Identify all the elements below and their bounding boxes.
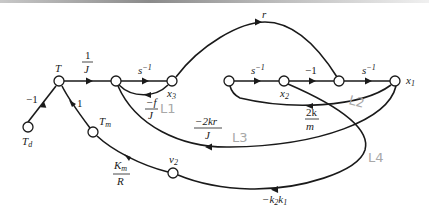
edge-x3-n1 — [119, 85, 168, 95]
gain-r: r — [262, 8, 267, 20]
gain-km-r-den: R — [116, 175, 124, 187]
node-n6 — [334, 76, 344, 86]
gain-td-t: −1 — [26, 93, 38, 105]
annotation-l2: L2 — [347, 92, 366, 111]
gain-2kr-den: J — [205, 129, 211, 141]
label-x1: x1 — [405, 74, 415, 88]
gain-s-inv-2: s−1 — [251, 63, 265, 76]
edges — [28, 19, 396, 194]
gain-labels: −1 1 1 J s−1 s−1 −1 s−1 r −f J −2kr J 2k… — [26, 8, 376, 207]
node-td — [23, 122, 33, 132]
node-n4 — [224, 76, 234, 86]
gain-2k-m-den: m — [306, 120, 314, 132]
gain-s-inv-3: s−1 — [362, 63, 376, 76]
signal-flow-graph: Td T x3 x2 x1 Tm v2 −1 1 1 J s−1 s−1 −1 … — [0, 0, 429, 218]
gain-inv-j-den: J — [84, 63, 90, 75]
node-x2 — [279, 76, 289, 86]
gain-f-over-j-den: J — [148, 109, 154, 121]
gain-2kr-num: −2kr — [195, 115, 218, 127]
gain-2k-m-num: 2k — [306, 106, 318, 118]
gain-inv-j-num: 1 — [85, 49, 91, 61]
node-n1 — [111, 76, 121, 86]
label-t: T — [55, 62, 62, 74]
node-x1 — [390, 76, 400, 86]
label-tm: Tm — [99, 115, 111, 129]
annotation-l4: L4 — [368, 150, 384, 165]
node-tm — [88, 127, 98, 137]
nodes — [23, 76, 400, 178]
gain-k2k1: −k2k1 — [262, 193, 287, 207]
gain-tm-t: 1 — [77, 97, 83, 109]
node-x3 — [167, 76, 177, 86]
gain-km-r-num: Km — [113, 159, 127, 173]
label-v2: v2 — [169, 153, 178, 167]
annotation-l1: L1 — [160, 101, 176, 116]
gain-minus-one: −1 — [305, 64, 317, 76]
gain-s-inv-1: s−1 — [138, 63, 152, 76]
label-x3: x3 — [166, 87, 176, 101]
label-td: Td — [22, 135, 33, 149]
label-x2: x2 — [279, 87, 289, 101]
node-t — [54, 76, 64, 86]
annotation-l3: L3 — [232, 130, 248, 145]
gain-f-over-j-num: −f — [146, 96, 158, 108]
edge-v2-tm — [97, 136, 168, 172]
edge-tm-t — [62, 86, 90, 128]
node-v2 — [168, 168, 178, 178]
